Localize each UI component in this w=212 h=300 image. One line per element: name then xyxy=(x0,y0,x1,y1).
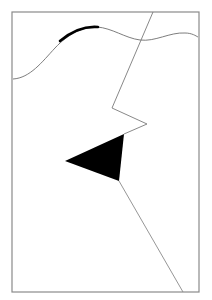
black-triangle xyxy=(65,134,124,181)
zigzag-line xyxy=(112,12,153,134)
wave-curve xyxy=(13,27,198,79)
diagonal-tail-line xyxy=(119,181,183,292)
wave-thick-segment xyxy=(60,27,98,41)
abstract-line-artwork xyxy=(0,0,212,300)
